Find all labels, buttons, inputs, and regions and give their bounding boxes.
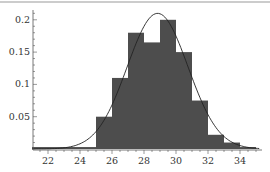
y-tick-label: 0.05 <box>9 111 30 122</box>
x-tick-label: 30 <box>170 155 182 166</box>
histogram-bar <box>176 52 192 149</box>
histogram-bar <box>128 33 144 149</box>
histogram-bars <box>32 20 256 149</box>
x-tick-label: 28 <box>138 155 150 166</box>
histogram-bar <box>192 101 208 149</box>
histogram-bar <box>144 42 160 149</box>
y-tick-label: 0.15 <box>9 46 30 57</box>
x-tick-label: 24 <box>74 155 86 166</box>
histogram-chart: 0.050.10.150.222242628303234 <box>0 0 270 172</box>
y-tick-label: 0.1 <box>15 78 30 89</box>
histogram-bar <box>160 20 176 149</box>
y-tick-label: 0.2 <box>15 14 30 25</box>
histogram-bar <box>96 117 112 149</box>
x-tick-label: 34 <box>234 155 246 166</box>
x-tick-label: 26 <box>106 155 118 166</box>
histogram-bar <box>224 143 240 149</box>
histogram-bar <box>112 78 128 149</box>
x-tick-label: 22 <box>42 155 54 166</box>
histogram-bar <box>208 135 224 149</box>
x-tick-label: 32 <box>202 155 214 166</box>
